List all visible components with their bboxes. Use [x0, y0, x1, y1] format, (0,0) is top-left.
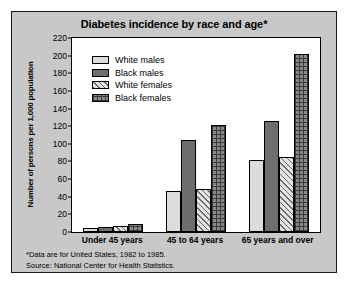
- bar: [166, 191, 181, 232]
- y-tick-label: 0: [62, 227, 67, 237]
- bar: [264, 121, 279, 232]
- y-tick-label: 140: [53, 104, 67, 114]
- footnote-data-source: *Data are for United States, 1982 to 198…: [26, 250, 175, 261]
- plot-area: 020406080100120140160180200220 White mal…: [71, 37, 321, 233]
- y-tick-label: 80: [58, 156, 67, 166]
- bar: [279, 157, 294, 232]
- x-axis-labels: Under 45 years45 to 64 years65 years and…: [71, 235, 321, 247]
- bar: [181, 140, 196, 232]
- y-axis-title: Number of persons per 1,000 population: [26, 50, 35, 220]
- bar: [196, 189, 211, 232]
- y-tick-label: 180: [53, 68, 67, 78]
- bar: [211, 125, 226, 232]
- bar: [113, 226, 128, 232]
- bar-groups: [72, 38, 320, 232]
- bar-group: [166, 38, 226, 232]
- x-tick-label: 45 to 64 years: [167, 235, 223, 245]
- y-tick-label: 100: [53, 139, 67, 149]
- y-tick-label: 200: [53, 51, 67, 61]
- y-tick-label: 60: [58, 174, 67, 184]
- y-tick-label: 220: [53, 33, 67, 43]
- chart-title: Diabetes incidence by race and age*: [12, 18, 336, 30]
- footnote-source: Source: National Center for Health Stati…: [26, 261, 175, 272]
- bar-group: [249, 38, 309, 232]
- y-tick-label: 120: [53, 121, 67, 131]
- bar: [294, 54, 309, 232]
- bar: [83, 228, 98, 232]
- chart-figure: Diabetes incidence by race and age* Numb…: [11, 11, 337, 273]
- chart-footnotes: *Data are for United States, 1982 to 198…: [26, 250, 175, 272]
- y-tick-label: 160: [53, 86, 67, 96]
- bar: [128, 224, 143, 232]
- bar: [98, 227, 113, 232]
- x-tick-label: 65 years and over: [242, 235, 314, 245]
- y-tick-label: 40: [58, 192, 67, 202]
- bar: [249, 160, 264, 232]
- bar-group: [83, 38, 143, 232]
- y-tick-label: 20: [58, 209, 67, 219]
- x-tick-label: Under 45 years: [82, 235, 143, 245]
